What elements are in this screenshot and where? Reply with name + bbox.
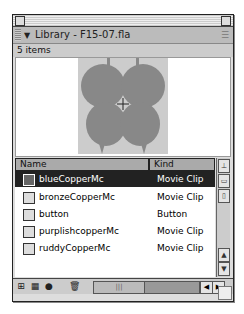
grip-icon[interactable]	[15, 29, 21, 41]
scroll-thumb[interactable]: |||	[94, 282, 145, 293]
movie-clip-icon	[23, 226, 35, 238]
panel-header: ▼ Library - F15-07.fla ☰	[13, 27, 233, 44]
library-window: ▼ Library - F15-07.fla ☰ 5 items Name Ki…	[12, 14, 234, 302]
close-box-icon[interactable]	[15, 16, 25, 26]
movie-clip-icon	[23, 243, 35, 255]
preview-pane	[15, 57, 231, 157]
symbol-preview	[78, 58, 168, 154]
options-menu-icon[interactable]: ☰	[221, 30, 229, 40]
window-titlebar[interactable]	[13, 15, 233, 27]
list-item[interactable]: blueCopperMcMovie Clip	[15, 171, 215, 187]
symbol-list: blueCopperMcMovie Clip bronzeCopperMcMov…	[15, 171, 215, 277]
item-count: 5 items	[13, 44, 233, 57]
panel-title: Library - F15-07.fla	[35, 29, 130, 40]
collapse-triangle-icon[interactable]: ▼	[24, 31, 30, 40]
movie-clip-icon	[23, 192, 35, 204]
button-icon	[23, 209, 35, 221]
properties-icon[interactable]: ●	[44, 281, 54, 291]
collapse-box-icon[interactable]	[221, 16, 231, 26]
list-item[interactable]: bronzeCopperMcMovie Clip	[15, 189, 215, 205]
scroll-down-button[interactable]: ▼	[218, 262, 230, 276]
new-folder-icon[interactable]: ▦	[30, 281, 40, 291]
vertical-scrollbar[interactable]: ⊥ ▭ ▯ ▲ ▼	[216, 158, 230, 277]
list-item[interactable]: ruddyCopperMcMovie Clip	[15, 240, 215, 256]
horizontal-scrollbar[interactable]: |||	[93, 281, 200, 294]
trash-icon[interactable]: 🗑	[69, 281, 79, 291]
column-name[interactable]: Name	[16, 159, 148, 170]
bottom-toolbar: ⊞ ▦ ● 🗑 ||| ◀ ▶	[13, 278, 233, 294]
column-kind[interactable]: Kind	[150, 159, 214, 170]
new-symbol-icon[interactable]: ⊞	[16, 281, 26, 291]
sort-order-icon[interactable]: ⊥	[218, 159, 230, 173]
wide-state-icon[interactable]: ▭	[218, 174, 230, 188]
resize-grip-icon[interactable]	[218, 286, 232, 300]
list-item[interactable]: buttonButton	[15, 206, 215, 222]
list-item[interactable]: purplishcopperMcMovie Clip	[15, 223, 215, 239]
narrow-state-icon[interactable]: ▯	[218, 189, 230, 203]
scroll-up-button[interactable]: ▲	[218, 248, 230, 262]
column-headers: Name Kind	[15, 158, 215, 171]
movie-clip-icon	[23, 174, 35, 186]
butterfly-icon	[78, 58, 168, 154]
